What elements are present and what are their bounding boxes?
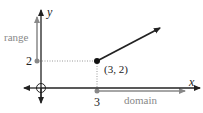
- domain-label: domain: [124, 94, 157, 106]
- ray-endpoint: [94, 58, 100, 64]
- range-label: range: [4, 31, 29, 43]
- ray: [94, 28, 160, 64]
- point-label: (3, 2): [104, 63, 128, 76]
- y-tick-label: 2: [26, 54, 32, 68]
- range-arrow: [35, 17, 40, 64]
- y-axis-label: y: [46, 5, 53, 19]
- domain-range-diagram: y x range domain 2 3 (3, 2): [0, 0, 203, 113]
- x-axis-label: x: [188, 75, 195, 89]
- x-tick-label: 3: [94, 95, 100, 109]
- guide-lines: [37, 61, 97, 91]
- domain-arrow: [95, 89, 186, 94]
